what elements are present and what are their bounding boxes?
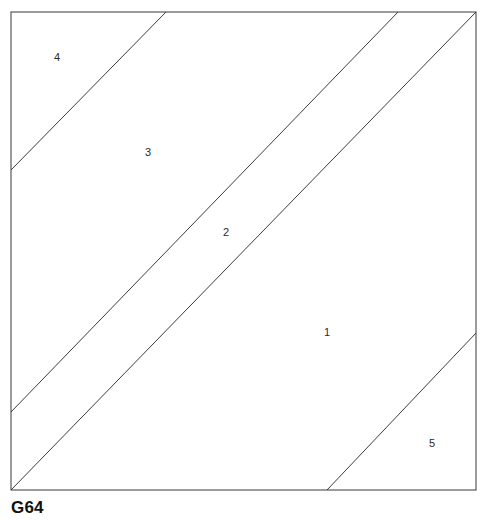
- region-label-3: 3: [145, 146, 151, 158]
- region-label-4: 4: [54, 51, 60, 63]
- figure-caption: G64: [11, 498, 44, 518]
- region-label-5: 5: [429, 437, 435, 449]
- region-label-2: 2: [223, 226, 229, 238]
- figure-container: 4 3 2 1 5 G64: [0, 0, 489, 522]
- region-label-1: 1: [324, 326, 330, 338]
- partition-diagram: 4 3 2 1 5: [0, 0, 489, 522]
